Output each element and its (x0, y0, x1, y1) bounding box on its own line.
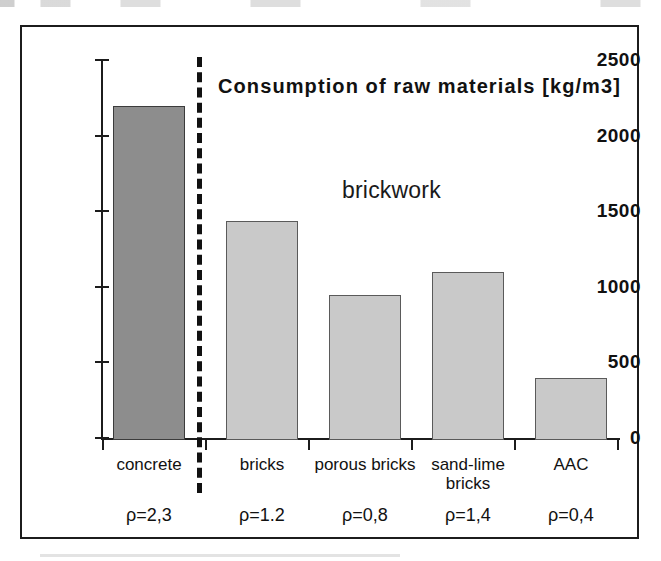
category-label-line: bricks (398, 474, 538, 493)
x-axis-tick-mark (514, 438, 516, 450)
brickwork-annotation: brickwork (342, 177, 441, 204)
x-axis-tick-mark (205, 438, 207, 450)
y-axis-tick-label: 2000 (579, 126, 641, 145)
y-axis-tick-label: 1500 (579, 201, 641, 220)
chart-frame: 05001000150020002500 Consumption of raw … (20, 25, 639, 539)
y-axis-tick-mark (95, 286, 109, 288)
category-label-line: AAC (501, 455, 641, 474)
y-axis-tick-mark (95, 361, 109, 363)
x-axis-tick-mark (411, 438, 413, 450)
x-axis-tick-mark (617, 438, 619, 450)
scan-artifact-bottom (40, 554, 400, 557)
y-axis-tick-mark (95, 135, 109, 137)
bar-bricks (226, 221, 298, 440)
density-label-AAC: ρ=0,4 (501, 505, 641, 526)
y-axis-tick-label: 1000 (579, 277, 641, 296)
bar-concrete (113, 106, 185, 440)
x-axis-tick-mark (102, 438, 104, 450)
group-divider-dashed-line (197, 57, 202, 493)
y-axis-tick-label: 500 (579, 352, 641, 371)
y-axis-tick-label: 2500 (579, 50, 641, 69)
y-axis-line (101, 60, 103, 440)
category-label-AAC: AAC (501, 455, 641, 474)
chart-title: Consumption of raw materials [kg/m3] (218, 75, 621, 98)
bar-AAC (535, 378, 607, 440)
scan-artifact-top (0, 0, 661, 7)
bar-sand-lime-bricks (432, 272, 504, 440)
y-axis-tick-mark (95, 210, 109, 212)
bar-chart-plot-area: 05001000150020002500 Consumption of raw … (22, 27, 641, 541)
x-axis-tick-mark (308, 438, 310, 450)
y-axis-tick-mark (95, 59, 109, 61)
bar-porous-bricks (329, 295, 401, 440)
